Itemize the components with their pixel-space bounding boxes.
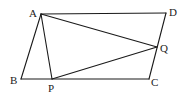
segment-aq	[41, 14, 157, 47]
segment-ad	[41, 13, 166, 14]
point-label-p: P	[48, 82, 54, 94]
point-label-b: B	[10, 74, 17, 86]
segment-pq	[52, 47, 157, 79]
geometry-diagram: A B C D P Q	[0, 0, 189, 96]
labels: A B C D P Q	[10, 6, 177, 94]
point-label-q: Q	[160, 42, 168, 54]
point-label-c: C	[151, 76, 158, 88]
point-label-a: A	[29, 7, 37, 19]
segment-ap	[41, 14, 52, 79]
segments	[21, 13, 166, 79]
segment-ba	[21, 14, 41, 79]
point-label-d: D	[169, 6, 177, 18]
